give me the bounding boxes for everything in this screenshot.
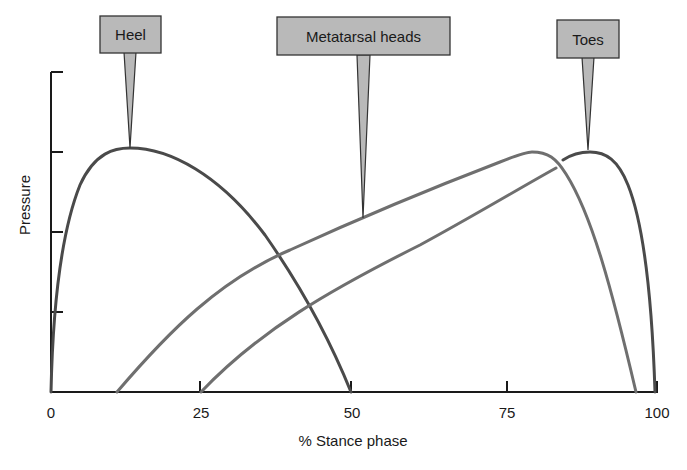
- callout-heel-label: Heel: [115, 26, 146, 43]
- x-tick-label-0: 0: [47, 404, 55, 421]
- callout-toes: Toes: [557, 20, 619, 150]
- callout-metatarsal-pointer: [357, 55, 370, 218]
- metatarsal-curve: [117, 152, 636, 392]
- y-axis-title: Pressure: [16, 175, 33, 235]
- callout-metatarsal: Metatarsal heads: [277, 17, 450, 218]
- callout-toes-label: Toes: [572, 31, 604, 48]
- callout-heel: Heel: [100, 16, 161, 148]
- toes-curve: [563, 152, 655, 392]
- x-tick-labels: 0 25 50 75 100: [47, 404, 670, 421]
- x-tick-label-75: 75: [499, 404, 516, 421]
- x-tick-label-50: 50: [344, 404, 361, 421]
- axes: [50, 72, 658, 392]
- callout-toes-pointer: [582, 57, 594, 150]
- x-tick-label-25: 25: [193, 404, 210, 421]
- metatarsal-second-line: [201, 168, 556, 392]
- heel-curve: [51, 148, 351, 392]
- x-tick-label-100: 100: [644, 404, 669, 421]
- callout-heel-pointer: [124, 52, 136, 148]
- x-axis-title: % Stance phase: [298, 432, 407, 449]
- callout-metatarsal-label: Metatarsal heads: [306, 28, 421, 45]
- pressure-stance-chart: Heel Metatarsal heads Toes 0 25 50 75 10…: [0, 0, 687, 470]
